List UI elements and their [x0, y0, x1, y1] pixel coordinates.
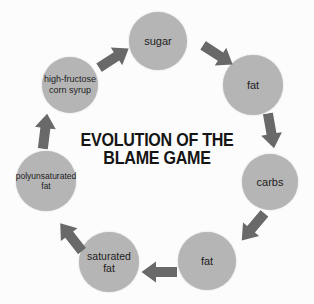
node-sugar: sugar: [129, 12, 187, 70]
node-polyunsaturated-fat: polyunsaturated fat: [16, 151, 76, 211]
cycle-diagram: EVOLUTION OF THE BLAME GAME sugarfatcarb…: [0, 0, 314, 304]
title-line-1: EVOLUTION OF THE: [13, 131, 302, 149]
arrow-polyunsaturated-to-hfcs: [32, 112, 58, 150]
node-fat-2: fat: [178, 232, 236, 290]
arrow-carbs-to-fat: [233, 206, 273, 248]
node-carbs: carbs: [242, 154, 298, 210]
arrow-fat-to-saturated-fat: [141, 261, 177, 283]
node-high-fructose-corn-syrup: high-fructose corn syrup: [42, 57, 98, 113]
